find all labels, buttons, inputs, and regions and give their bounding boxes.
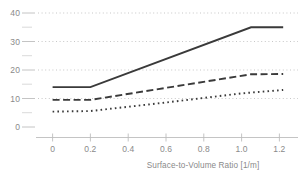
x-tick-label-0.2: 0.2 bbox=[84, 144, 96, 154]
x-tick-label-1.0: 1.0 bbox=[236, 144, 248, 154]
x-tick-label-0.8: 0.8 bbox=[198, 144, 210, 154]
y-tick-label-30: 30 bbox=[10, 37, 20, 47]
x-tick-label-0.6: 0.6 bbox=[160, 144, 172, 154]
y-tick-label-10: 10 bbox=[10, 94, 20, 104]
x-tick-label-1.2: 1.2 bbox=[273, 144, 285, 154]
y-tick-label-20: 20 bbox=[10, 65, 20, 75]
y-tick-label-0: 0 bbox=[15, 122, 20, 132]
gridlines-group bbox=[38, 13, 298, 99]
y-tick-label-40: 40 bbox=[10, 8, 20, 18]
y-axis-labels-group: 40 30 20 10 0 bbox=[10, 8, 20, 132]
x-axis-title: Surface-to-Volume Ratio [1/m] bbox=[147, 161, 260, 170]
chart-container: 40 30 20 10 0 0 bbox=[0, 0, 304, 176]
y-axis-ticks-group bbox=[22, 13, 35, 127]
chart-plot-svg: 40 30 20 10 0 0 bbox=[0, 0, 304, 176]
series-group bbox=[53, 27, 284, 111]
x-axis-labels-group: 0 0.2 0.4 0.6 0.8 1.0 1.2 bbox=[50, 144, 285, 154]
x-tick-label-0.4: 0.4 bbox=[122, 144, 134, 154]
series-line-solid bbox=[53, 27, 284, 87]
x-tick-label-0: 0 bbox=[50, 144, 55, 154]
